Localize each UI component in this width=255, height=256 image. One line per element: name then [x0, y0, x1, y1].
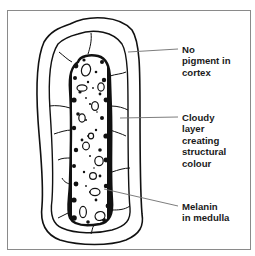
- leader-cortex: [128, 49, 178, 52]
- label-cloudy-line-3: creating: [182, 135, 226, 146]
- medulla-core: [66, 55, 113, 228]
- label-cloudy-layer: Cloudy layer creating structural colour: [182, 112, 226, 169]
- label-cortex: No pigment in cortex: [182, 44, 231, 78]
- label-cortex-line-3: cortex: [182, 67, 231, 78]
- label-cloudy-line-2: layer: [182, 123, 226, 134]
- label-medulla-line-2: in medulla: [182, 212, 229, 223]
- label-cloudy-line-4: structural: [182, 146, 226, 157]
- label-cloudy-line-1: Cloudy: [182, 112, 226, 123]
- label-cloudy-line-5: colour: [182, 158, 226, 169]
- label-cortex-line-2: pigment in: [182, 55, 231, 66]
- label-medulla-line-1: Melanin: [182, 201, 229, 212]
- label-cortex-line-1: No: [182, 44, 231, 55]
- label-medulla: Melanin in medulla: [182, 201, 229, 224]
